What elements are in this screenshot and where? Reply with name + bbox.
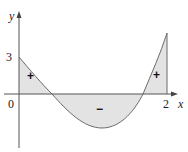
y-axis-label: y [9,10,14,22]
y-tick-3: 3 [6,51,12,63]
plus-sign-right: + [153,69,160,81]
plus-sign-left: + [27,70,34,82]
x-tick-2: 2 [163,98,169,110]
minus-sign-center: − [96,103,103,115]
y-axis-arrow-icon [17,11,22,18]
x-axis-label: x [178,98,183,110]
x-axis-arrow-icon [171,92,178,97]
origin-label: 0 [8,98,14,110]
